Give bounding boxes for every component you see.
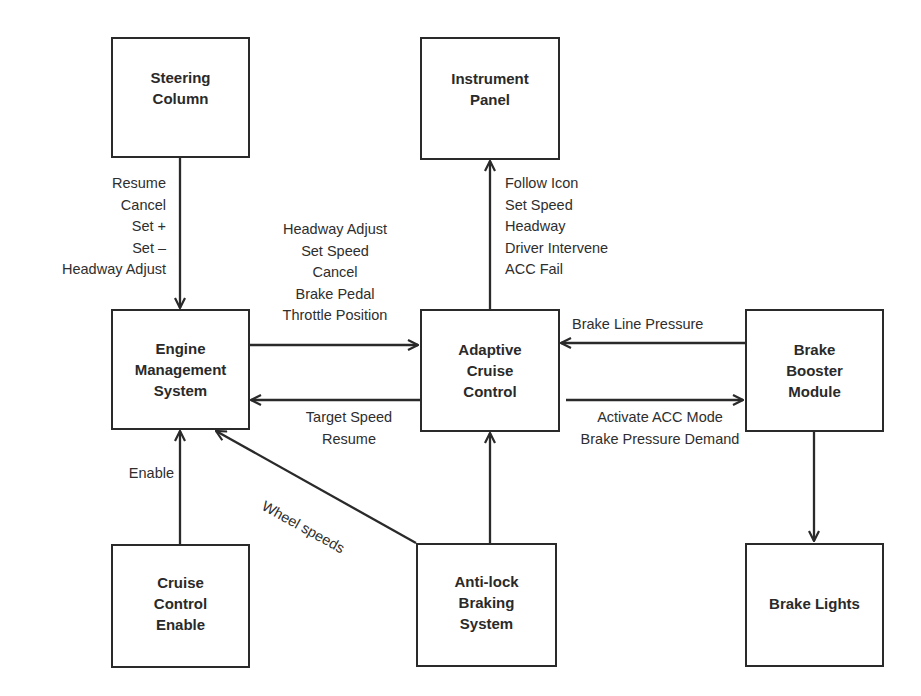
node-instrument-panel: Instrument Panel — [420, 37, 560, 160]
node-label: Engine Management System — [135, 338, 227, 401]
edge-label-ems-to-acc: Headway Adjust Set Speed Cancel Brake Pe… — [268, 219, 402, 327]
edge-label-acc-to-ems: Target Speed Resume — [286, 407, 412, 450]
edge-label-steering-to-ems: Resume Cancel Set + Set – Headway Adjust — [62, 173, 166, 281]
node-steering-column: Steering Column — [111, 37, 250, 158]
node-label: Brake Booster Module — [786, 339, 843, 402]
node-label: Anti-lock Braking System — [454, 571, 518, 634]
edge-label-enable-to-ems: Enable — [129, 463, 174, 485]
node-brake-lights: Brake Lights — [745, 543, 884, 667]
acc-block-diagram: Steering Column Instrument Panel Engine … — [0, 0, 921, 696]
node-label: Adaptive Cruise Control — [458, 339, 521, 402]
node-label: Brake Lights — [769, 593, 860, 614]
node-engine-management-system: Engine Management System — [111, 309, 250, 430]
node-label: Cruise Control Enable — [154, 572, 207, 635]
node-brake-booster-module: Brake Booster Module — [745, 309, 884, 432]
node-cruise-control-enable: Cruise Control Enable — [111, 544, 250, 668]
node-label: Steering Column — [150, 67, 210, 109]
edge-label-acc-to-booster: Activate ACC Mode Brake Pressure Demand — [560, 407, 760, 450]
node-adaptive-cruise-control: Adaptive Cruise Control — [420, 309, 560, 432]
edge-label-booster-to-acc: Brake Line Pressure — [572, 314, 703, 336]
node-label: Instrument Panel — [451, 68, 529, 110]
edge-label-acc-to-instrument: Follow Icon Set Speed Headway Driver Int… — [505, 173, 608, 281]
node-anti-lock-braking-system: Anti-lock Braking System — [416, 543, 557, 667]
